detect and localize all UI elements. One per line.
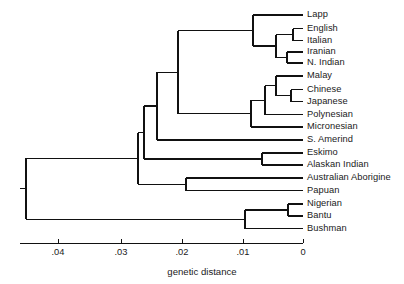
tree-branch-group: [20, 15, 303, 229]
tip-label-english: English: [307, 24, 338, 33]
tip-label-iranian: Iranian: [307, 47, 336, 56]
tip-label-nigerian: Nigerian: [307, 199, 342, 208]
axis-tick-label-1: .03: [101, 248, 141, 257]
tip-label-bantu: Bantu: [307, 211, 332, 220]
tip-label-japanese: Japanese: [307, 97, 348, 106]
tip-label-polynesian: Polynesian: [307, 110, 353, 119]
tip-label-s-amerind: S. Amerind: [307, 135, 353, 144]
axis-tick-label-2: .02: [162, 248, 202, 257]
tip-label-micronesian: Micronesian: [307, 122, 358, 131]
tip-label-eskimo: Eskimo: [307, 148, 338, 157]
axis-tick-label-4: 0: [283, 248, 323, 257]
tip-label-papuan: Papuan: [307, 186, 339, 195]
tip-label-alaskan-indian: Alaskan Indian: [307, 160, 369, 169]
tip-label-n-indian: N. Indian: [307, 58, 345, 67]
tip-label-australian-aborigine: Australian Aborigine: [307, 173, 391, 182]
tip-label-bushman: Bushman: [307, 224, 347, 233]
axis-tick-label-3: .01: [223, 248, 263, 257]
distance-axis: [20, 239, 303, 243]
axis-tick-label-0: .04: [38, 248, 78, 257]
axis-title: genetic distance: [0, 267, 404, 277]
tip-label-italian: Italian: [307, 36, 332, 45]
tip-label-lapp: Lapp: [307, 10, 328, 19]
tip-label-malay: Malay: [307, 71, 332, 80]
tip-label-chinese: Chinese: [307, 85, 341, 94]
